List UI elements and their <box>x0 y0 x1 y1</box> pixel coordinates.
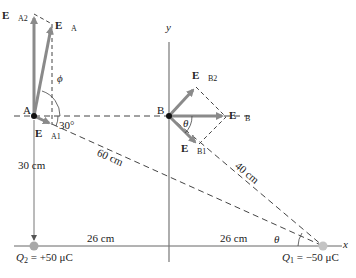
label-theta-b: θ <box>183 118 188 129</box>
charge-q1 <box>319 242 328 251</box>
parallelogram-b-top <box>196 87 226 117</box>
label-eb1: E⃗B1 <box>181 143 206 156</box>
label-ea: E⃗A <box>55 20 77 33</box>
parallelogram-b-bottom <box>199 117 226 144</box>
label-ea2: E⃗A2 <box>2 10 28 23</box>
vector-ea <box>34 28 51 116</box>
dashed-line-b-q1 <box>169 116 323 246</box>
label-theta-q1: θ <box>274 234 279 245</box>
charge-q2 <box>30 242 39 251</box>
point-b <box>166 113 172 119</box>
label-q1: Q1 = −50 μC <box>282 252 339 265</box>
label-26cm-left: 26 cm <box>87 233 114 244</box>
parallelogram-a-top <box>34 14 52 24</box>
label-ea1: E⃗A1 <box>35 128 61 141</box>
label-x-axis: x <box>343 239 348 250</box>
angle-arc-30 <box>56 116 58 126</box>
label-y-axis: y <box>166 22 171 33</box>
label-q2: Q2 = +50 μC <box>16 252 73 265</box>
dashed-line-a-q1 <box>34 116 323 246</box>
label-phi: ϕ <box>57 73 63 84</box>
angle-arc-phi <box>42 91 60 116</box>
vector-eb1 <box>169 116 195 142</box>
point-a <box>31 113 37 119</box>
label-eb2: E⃗B2 <box>192 70 217 83</box>
label-eb: E⃗B <box>229 110 250 123</box>
vector-eb2 <box>169 90 193 116</box>
label-30cm: 30 cm <box>18 160 45 171</box>
label-30deg: 30° <box>59 120 74 131</box>
label-point-b: B <box>157 105 164 116</box>
label-point-a: A <box>23 105 31 116</box>
label-26cm-right: 26 cm <box>220 233 247 244</box>
